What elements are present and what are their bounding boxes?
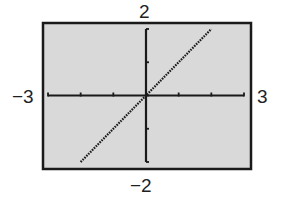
calculator-graph-screen [0,0,285,202]
